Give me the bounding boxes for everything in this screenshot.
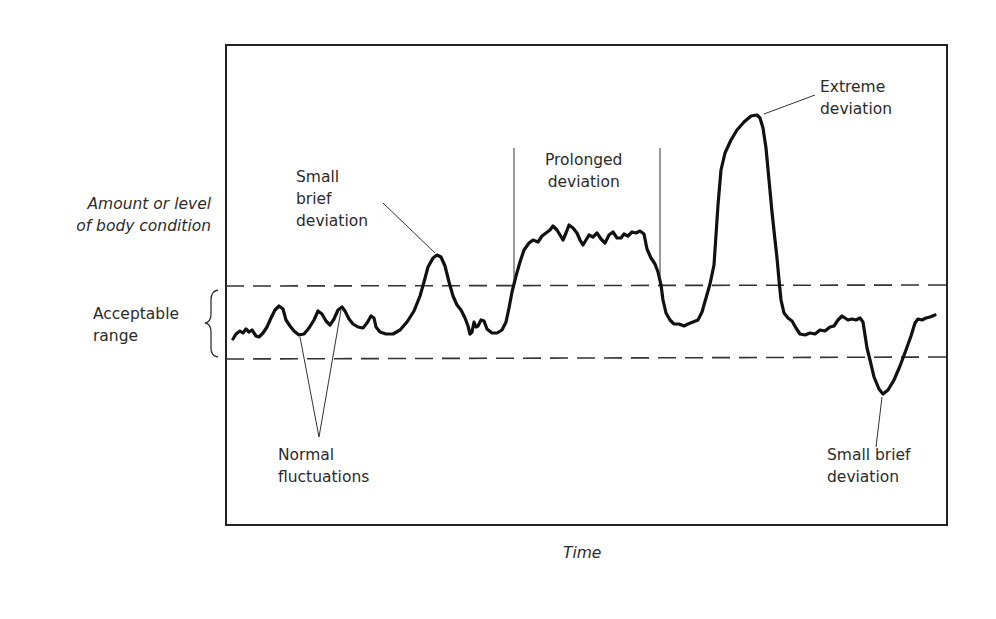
lower-limit-line (226, 357, 947, 359)
annotation-normal-line1: Normal (278, 444, 369, 466)
annotation-normal-line2: fluctuations (278, 466, 369, 488)
annotation-small-above-line1: Small (296, 166, 368, 188)
annotation-prolonged-deviation: Prolonged deviation (545, 149, 622, 193)
x-axis-label: Time (563, 542, 601, 564)
annotation-prolonged-line2: deviation (545, 171, 622, 193)
leader-normal-2 (319, 310, 341, 437)
acceptable-range-label: Acceptable range (93, 303, 179, 347)
leader-small-above (383, 203, 435, 253)
acceptable-range-line1: Acceptable (93, 303, 179, 325)
annotation-extreme-line1: Extreme (820, 76, 892, 98)
annotation-prolonged-line1: Prolonged (545, 149, 622, 171)
annotation-small-above-line2: brief (296, 188, 368, 210)
y-axis-label-line1: Amount or level (40, 193, 211, 215)
annotation-extreme-deviation: Extreme deviation (820, 76, 892, 120)
y-axis-label: Amount or level of body condition (40, 193, 211, 237)
annotation-small-above-line3: deviation (296, 210, 368, 232)
annotation-small-below-line2: deviation (827, 466, 911, 488)
annotation-small-below-line1: Small brief (827, 444, 911, 466)
range-brace-icon (205, 290, 218, 357)
upper-limit-line (226, 285, 947, 286)
leader-normal-1 (300, 337, 319, 437)
annotation-small-brief-above: Small brief deviation (296, 166, 368, 232)
leader-small-below (876, 397, 882, 447)
acceptable-range-line2: range (93, 325, 179, 347)
annotation-normal-fluctuations: Normal fluctuations (278, 444, 369, 488)
leader-extreme (764, 95, 815, 114)
y-axis-label-line2: of body condition (40, 215, 211, 237)
annotation-extreme-line2: deviation (820, 98, 892, 120)
annotation-small-brief-below: Small brief deviation (827, 444, 911, 488)
